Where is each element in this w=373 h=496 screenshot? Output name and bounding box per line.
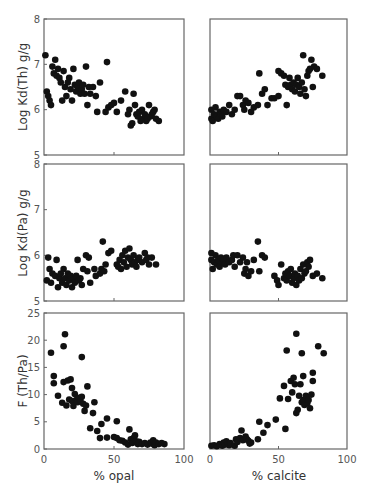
data-point [79, 282, 86, 289]
data-point [84, 268, 91, 275]
data-point [319, 72, 326, 79]
ylabel-kd-th: Log Kd(Th) g/g [16, 43, 30, 131]
data-point [314, 270, 321, 277]
data-point [111, 100, 118, 107]
data-point [122, 88, 129, 95]
data-point [79, 354, 86, 361]
data-point [156, 118, 163, 125]
data-point [299, 79, 306, 86]
data-point [55, 392, 62, 399]
data-point [297, 381, 304, 388]
data-point [132, 102, 139, 109]
data-point [149, 254, 156, 261]
data-point [63, 402, 70, 409]
panel-middle-left: 5678 [34, 159, 184, 307]
y-tick-label: 8 [34, 159, 40, 170]
data-point [97, 79, 104, 86]
data-point [86, 254, 93, 261]
data-point [241, 106, 248, 113]
y-tick-label: 5 [34, 416, 40, 427]
data-point [310, 370, 317, 377]
y-tick-label: 20 [27, 335, 40, 346]
data-point [153, 261, 160, 268]
data-point [256, 70, 263, 77]
y-tick-label: 7 [34, 59, 40, 70]
y-tick-label: 0 [34, 444, 40, 455]
data-point [114, 109, 121, 116]
data-point [319, 275, 326, 282]
panel-bottom-left: 0510152025050100 [27, 308, 193, 466]
data-point [310, 378, 317, 385]
data-point [67, 376, 74, 383]
data-point [278, 261, 285, 268]
data-point [307, 405, 314, 412]
data-point [320, 350, 327, 357]
data-point [146, 102, 153, 109]
data-point [91, 266, 98, 273]
data-point [300, 373, 307, 380]
data-point [62, 331, 69, 338]
data-point [48, 102, 55, 109]
data-point [84, 102, 91, 109]
data-point [277, 395, 284, 402]
data-point [303, 93, 310, 100]
data-point [98, 421, 105, 428]
data-point [290, 374, 297, 381]
data-point [94, 428, 101, 435]
data-point [285, 396, 292, 403]
data-point [126, 245, 133, 252]
data-point [52, 57, 59, 64]
data-point [45, 254, 52, 261]
data-point [63, 93, 70, 100]
panel-middle-right [208, 164, 347, 301]
ylabel-f-thpa: F (Th/Pa) [16, 354, 30, 407]
data-point [255, 436, 262, 443]
data-point [90, 410, 97, 417]
data-point [310, 84, 317, 91]
data-point [300, 52, 307, 59]
data-point [307, 257, 314, 264]
data-point [91, 399, 98, 406]
data-point [100, 238, 107, 245]
data-point [245, 100, 252, 107]
data-point [70, 66, 77, 73]
x-tick-label: 100 [174, 454, 193, 465]
data-point [255, 238, 262, 245]
y-tick-label: 7 [34, 204, 40, 215]
y-tick-label: 6 [34, 104, 40, 115]
data-point [161, 441, 168, 448]
x-tick-label: 0 [207, 454, 213, 465]
data-point [283, 102, 290, 109]
data-point [90, 84, 97, 91]
x-tick-label: 50 [108, 454, 121, 465]
data-point [262, 254, 269, 261]
data-point [283, 347, 290, 354]
data-point [301, 86, 308, 93]
data-point [77, 275, 84, 282]
data-point [282, 426, 289, 433]
data-point [146, 261, 153, 268]
data-point [126, 426, 133, 433]
xlabel-opal: % opal [94, 469, 135, 483]
data-point [264, 102, 271, 109]
y-tick-label: 8 [34, 14, 40, 25]
data-point [118, 97, 125, 104]
data-point [42, 52, 49, 59]
data-point [87, 425, 94, 432]
x-tick-label: 100 [337, 454, 356, 465]
data-point [48, 279, 55, 286]
data-point [83, 402, 90, 409]
data-point [256, 268, 263, 275]
data-point [114, 418, 121, 425]
ylabel-kd-pa: Log Kd(Pa) g/g [16, 189, 30, 276]
data-point [294, 407, 301, 414]
data-point [264, 422, 271, 429]
data-point [255, 102, 262, 109]
data-point [289, 389, 296, 396]
data-point [69, 385, 76, 392]
data-point [231, 106, 238, 113]
data-point [315, 343, 322, 350]
x-tick-label: 50 [272, 454, 285, 465]
data-point [48, 349, 55, 356]
data-point [256, 419, 263, 426]
